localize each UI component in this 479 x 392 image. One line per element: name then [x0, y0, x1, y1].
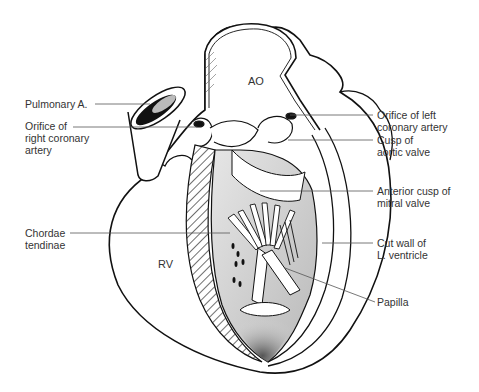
- label-cut-wall-lv: Cut wall of L. ventricle: [377, 237, 428, 261]
- label-anterior-cusp-mitral: Anterior cusp of mitral valve: [377, 185, 451, 209]
- heart-diagram: AO RV Pulmonary A. Orifice of right coro…: [0, 0, 479, 392]
- label-right-ventricle: RV: [158, 258, 173, 270]
- label-cusp-aortic-valve: Cusp of aortic valve: [377, 134, 430, 158]
- label-chordae-tendinae: Chordae tendinae: [25, 227, 65, 251]
- label-pulmonary-artery: Pulmonary A.: [25, 98, 87, 110]
- label-orifice-right-coronary: Orifice of right coronary artery: [25, 120, 89, 156]
- label-papilla: Papilla: [377, 296, 409, 308]
- label-aorta: AO: [248, 75, 264, 87]
- label-orifice-left-coronary: Orifice of left coronary artery: [377, 109, 448, 133]
